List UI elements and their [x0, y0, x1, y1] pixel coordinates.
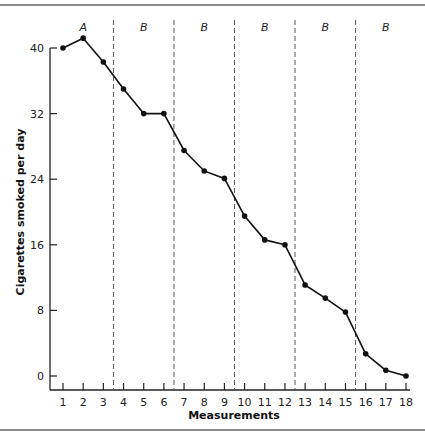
data-point-marker: [101, 59, 107, 65]
x-tick-label: 11: [258, 396, 272, 409]
data-point-marker: [60, 45, 66, 51]
x-tick-label: 13: [298, 396, 312, 409]
data-point-marker: [363, 351, 369, 357]
y-tick-label: 16: [30, 239, 44, 252]
line-chart: 0816243240123456789101112131415161718 AB…: [0, 0, 425, 433]
data-point-marker: [383, 367, 389, 373]
phase-label-b: B: [382, 21, 390, 34]
phase-change-lines: [113, 20, 355, 390]
data-point-marker: [262, 237, 268, 243]
data-point-marker: [161, 111, 167, 117]
x-axis-title: Measurements: [188, 409, 280, 422]
data-point-marker: [242, 213, 248, 219]
x-tick-label: 8: [201, 396, 208, 409]
x-tick-label: 4: [120, 396, 127, 409]
phase-label-b: B: [200, 21, 208, 34]
x-tick-label: 15: [338, 396, 352, 409]
x-tick-label: 3: [100, 396, 107, 409]
axes: 0816243240123456789101112131415161718: [30, 42, 413, 409]
phase-label-a: A: [78, 21, 87, 34]
x-tick-label: 10: [238, 396, 252, 409]
y-tick-label: 32: [30, 108, 44, 121]
phase-label-b: B: [140, 21, 148, 34]
data-point-marker: [282, 242, 288, 248]
x-tick-label: 5: [140, 396, 147, 409]
data-point-marker: [222, 176, 228, 182]
data-point-marker: [121, 86, 127, 92]
x-tick-label: 17: [379, 396, 393, 409]
data-point-marker: [80, 35, 86, 41]
x-tick-label: 7: [181, 396, 188, 409]
data-point-marker: [322, 295, 328, 301]
y-tick-label: 24: [30, 173, 44, 186]
data-point-marker: [201, 168, 207, 174]
y-tick-label: 0: [37, 370, 44, 383]
data-point-marker: [141, 111, 147, 117]
x-tick-label: 16: [359, 396, 373, 409]
x-tick-label: 6: [160, 396, 167, 409]
x-tick-label: 14: [318, 396, 332, 409]
y-tick-label: 8: [37, 304, 44, 317]
y-tick-label: 40: [30, 42, 44, 55]
data-point-marker: [302, 282, 308, 288]
phase-label-b: B: [322, 21, 330, 34]
x-tick-label: 12: [278, 396, 292, 409]
phase-label-b: B: [261, 21, 269, 34]
x-tick-label: 2: [80, 396, 87, 409]
x-tick-label: 18: [399, 396, 413, 409]
data-point-marker: [403, 373, 409, 379]
x-tick-label: 9: [221, 396, 228, 409]
data-point-marker: [343, 309, 349, 315]
y-axis-title: Cigarettes smoked per day: [14, 129, 27, 296]
data-point-marker: [181, 148, 187, 154]
x-tick-label: 1: [60, 396, 67, 409]
